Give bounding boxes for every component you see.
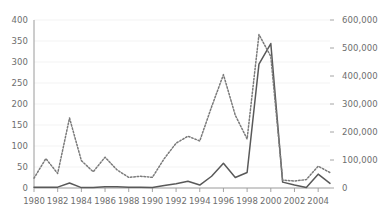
- y-axis-right-label: 400,000: [342, 71, 378, 81]
- x-axis-label: 1984: [71, 196, 93, 206]
- y-axis-left-label: 0: [22, 183, 28, 193]
- x-axis-label: 1982: [47, 196, 69, 206]
- y-axis-right-label: 300,000: [342, 99, 378, 109]
- y-axis-right-label: 200,000: [342, 127, 378, 137]
- series-group: [34, 35, 330, 188]
- x-axis-label: 2004: [307, 196, 329, 206]
- y-axis-left-labels: 050100150200250300350400: [11, 15, 28, 193]
- x-axis-label: 1980: [23, 196, 45, 206]
- x-axis-label: 1990: [142, 196, 164, 206]
- chart-container: 050100150200250300350400 0100,000200,000…: [0, 0, 378, 220]
- x-axis-label: 1996: [213, 196, 235, 206]
- y-axis-right: [330, 20, 334, 188]
- y-axis-right-label: 100,000: [342, 155, 378, 165]
- x-axis-label: 2000: [260, 196, 282, 206]
- y-axis-left-label: 250: [11, 78, 28, 88]
- x-axis-label: 1992: [165, 196, 187, 206]
- x-axis-label: 1994: [189, 196, 211, 206]
- y-axis-right-label: 0: [342, 183, 348, 193]
- y-axis-left-label: 400: [11, 15, 28, 25]
- y-axis-left-label: 300: [11, 57, 28, 67]
- y-axis-right-labels: 0100,000200,000300,000400,000500,000600,…: [342, 15, 378, 193]
- x-axis-labels: 1980198219841986198819901992199419961998…: [23, 196, 329, 206]
- y-axis-left-label: 150: [11, 120, 28, 130]
- y-axis-left-label: 350: [11, 36, 28, 46]
- x-axis: [34, 188, 330, 192]
- gridlines: [34, 20, 330, 167]
- x-axis-label: 1986: [94, 196, 116, 206]
- x-axis-label: 2002: [284, 196, 306, 206]
- line-chart: 050100150200250300350400 0100,000200,000…: [0, 0, 378, 220]
- y-axis-left-label: 100: [11, 141, 28, 151]
- y-axis-right-label: 500,000: [342, 43, 378, 53]
- series-line-dotted-series: [34, 35, 330, 181]
- x-axis-label: 1998: [236, 196, 258, 206]
- series-line-solid-series: [34, 44, 330, 188]
- y-axis-left-label: 200: [11, 99, 28, 109]
- x-axis-label: 1988: [118, 196, 140, 206]
- y-axis-left-label: 50: [17, 162, 28, 172]
- y-axis-right-label: 600,000: [342, 15, 378, 25]
